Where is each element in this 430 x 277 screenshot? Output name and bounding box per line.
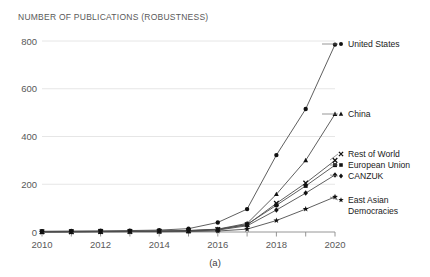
star-marker [338, 197, 343, 202]
series-european-union [40, 163, 337, 234]
legend-item-east-asian[interactable]: East AsianDemocracies [338, 195, 398, 216]
ytick-800: 800 [21, 36, 37, 47]
legend-label-canzuk: CANZUK [348, 171, 384, 181]
circle-marker [333, 42, 337, 46]
legend-label-east-asian-line2: Democracies [348, 206, 398, 216]
ytick-600: 600 [21, 83, 37, 94]
x-marker [339, 152, 343, 156]
circle-marker [245, 207, 249, 211]
ytick-400: 400 [21, 131, 37, 142]
series-line [42, 45, 335, 232]
circle-marker [216, 220, 220, 224]
ytick-0: 0 [32, 227, 37, 238]
legend: United StatesChinaRest of WorldEuropean … [322, 39, 410, 216]
legend-label-european-union: European Union [348, 160, 410, 170]
circle-marker [304, 107, 308, 111]
series-canzuk [40, 172, 338, 234]
diamond-marker [274, 207, 279, 213]
diamond-marker [333, 172, 338, 178]
y-axis: 800 600 400 200 0 [21, 36, 37, 238]
publications-chart: NUMBER OF PUBLICATIONS (ROBUSTNESS) 800 … [0, 0, 430, 277]
legend-item-canzuk[interactable]: CANZUK [339, 171, 384, 181]
legend-label-china: China [348, 109, 371, 119]
square-marker [339, 163, 343, 167]
legend-label-rest-of-world: Rest of World [348, 149, 400, 159]
gridlines [42, 41, 335, 184]
xtick-2014: 2014 [149, 239, 170, 250]
xtick-2016: 2016 [207, 239, 228, 250]
chart-svg: 800 600 400 200 0 2010 2012 2014 2016 20… [0, 0, 430, 277]
square-marker [304, 184, 308, 188]
series-united-states [40, 42, 337, 233]
xtick-2012: 2012 [90, 239, 111, 250]
legend-label-east-asian: East Asian [348, 195, 389, 205]
x-axis: 2010 2012 2014 2016 2018 2020 [31, 232, 345, 250]
triangle-marker [339, 112, 343, 116]
figure-caption: (a) [209, 257, 221, 268]
series-line [42, 175, 335, 232]
legend-item-european-union[interactable]: European Union [339, 160, 410, 170]
diamond-marker [339, 173, 343, 178]
xtick-2020: 2020 [324, 239, 345, 250]
circle-marker [274, 153, 278, 157]
ytick-200: 200 [21, 179, 37, 190]
circle-marker [339, 42, 343, 46]
series-line [42, 165, 335, 232]
legend-item-rest-of-world[interactable]: Rest of World [339, 149, 400, 159]
series-rest-of-world [40, 158, 338, 234]
xtick-2010: 2010 [31, 239, 52, 250]
star-marker [303, 206, 309, 212]
square-marker [274, 203, 278, 207]
legend-label-united-states: United States [348, 39, 400, 49]
xtick-2018: 2018 [266, 239, 287, 250]
x-marker [333, 158, 338, 163]
series-group [39, 42, 338, 234]
diamond-marker [303, 190, 308, 196]
legend-item-united-states[interactable]: United States [339, 39, 400, 49]
star-marker [273, 217, 279, 223]
legend-item-china[interactable]: China [339, 109, 371, 119]
